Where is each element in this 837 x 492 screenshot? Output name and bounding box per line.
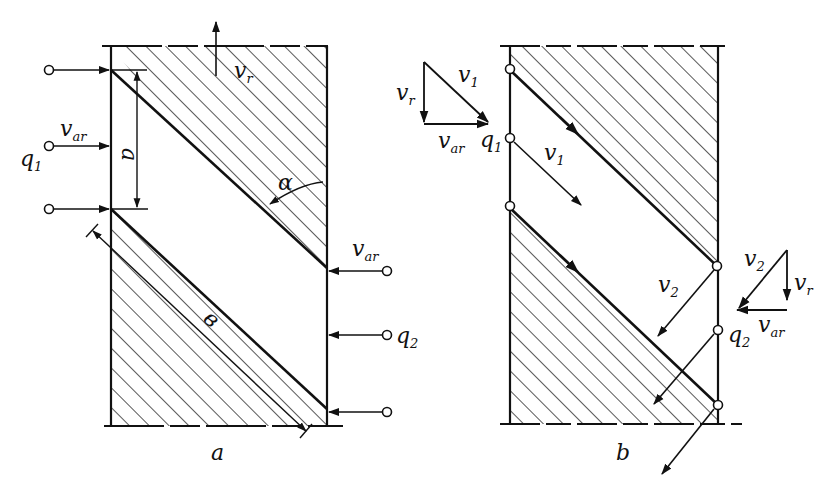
figure-canvas: a vr var q1 α в var q2 a [0,0,837,492]
tri1-var-label: var [438,128,465,156]
node-b-right-q2 [714,326,723,335]
v2-label: v2 [658,272,679,300]
tri2-v2-label: v2 [744,246,765,274]
node-b-left-bottom [506,202,515,211]
node-b-left-q1 [506,134,515,143]
q1-b-label: q1 [480,127,502,155]
panel-b-caption: b [616,440,630,465]
inlet-node-mid [45,142,54,151]
outlet-node-bottom [383,408,392,417]
outlet-node-mid [383,331,392,340]
outlet-node-top [383,267,392,276]
panel-a-upper-hatch [111,46,327,268]
inlet-node-top [45,66,54,75]
var-left-label: var [60,116,87,144]
q2-b-label: q2 [728,322,750,350]
tri1-vr-label: vr [396,80,415,108]
tri2-var-label: var [758,312,785,340]
panel-b-upper-hatch [510,46,718,267]
velocity-triangle-1: v1 vr var [396,62,488,156]
inlet-node-bottom [45,205,54,214]
panel-a: a vr var q1 α в var q2 a [20,22,418,465]
tri1-v1-label: v1 [458,62,479,90]
q2-label: q2 [396,323,418,351]
v1-label: v1 [544,140,565,168]
var-right-label: var [352,236,379,264]
panel-b-lower-hatch [510,208,718,424]
panel-b: q1 v1 v1 vr var q2 v2 v2 vr va [396,46,813,474]
node-b-right-bottom [714,401,723,410]
dimension-a-label: a [117,148,142,161]
node-b-left-top [506,65,515,74]
node-b-right-top [713,262,722,271]
velocity-triangle-2: v2 vr var [737,246,813,340]
q1-label: q1 [20,146,42,174]
panel-a-caption: a [211,440,224,465]
tri2-vr-label: vr [794,270,813,298]
angle-alpha-label: α [278,170,293,195]
